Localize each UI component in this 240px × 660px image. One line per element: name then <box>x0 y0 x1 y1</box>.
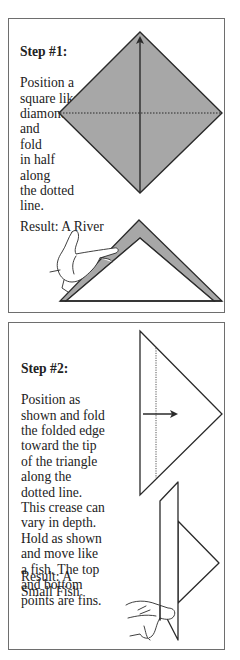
step1-panel: Step #1: Position a square like a diamon… <box>8 18 225 313</box>
step1-result: Result: A River <box>20 219 120 234</box>
step1-body: Position a square like a diamond and fol… <box>20 75 89 213</box>
step2-result: Result: A Small Fish <box>21 569 121 600</box>
step1-instructions: Step #1: Position a square like a diamon… <box>20 29 110 214</box>
step2-panel: Step #2: Position as shown and fold the … <box>8 322 225 650</box>
step1-heading: Step #1: <box>20 44 110 59</box>
step2-heading: Step #2: <box>21 361 131 376</box>
